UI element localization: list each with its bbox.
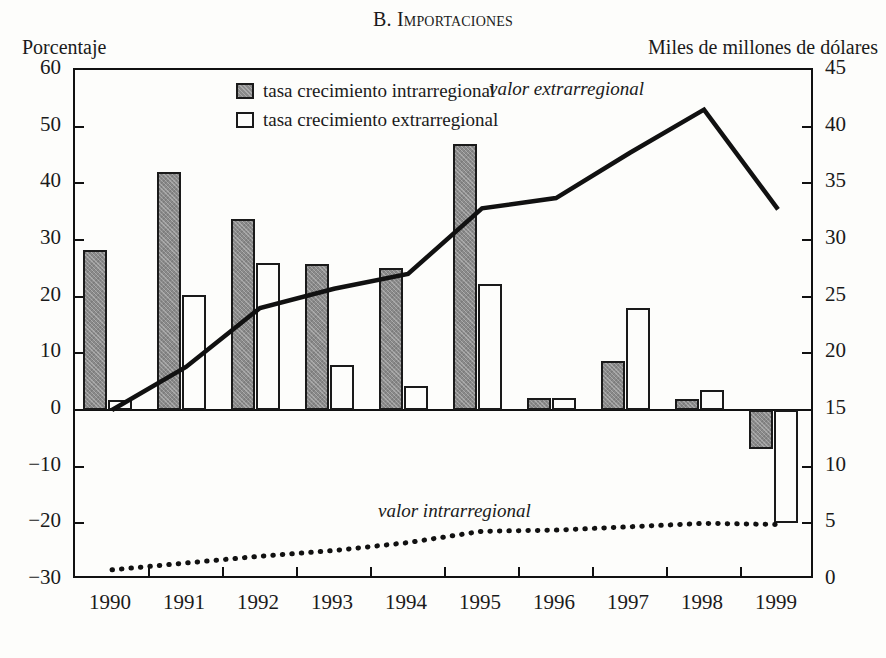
y-tick-label: 50 [0, 114, 61, 135]
chart-title-main: Importaciones [397, 8, 513, 30]
y-tick-label: 40 [0, 170, 61, 191]
y2-tick-label: 25 [825, 284, 846, 305]
x-tick-label: 1993 [295, 592, 369, 613]
y2-tick-label: 15 [825, 397, 846, 418]
y2-tick-label: 30 [825, 227, 846, 248]
chart-stage: B. Importaciones Porcentaje Miles de mil… [0, 0, 886, 658]
legend-label-extrarregional: tasa crecimiento extrarregional [263, 109, 498, 131]
legend-swatch-icon-extrarregional [236, 112, 254, 128]
y-tick-label: 30 [0, 227, 61, 248]
y-tick-label: 0 [0, 397, 61, 418]
y2-tick-label: 20 [825, 340, 846, 361]
legend-item-intrarregional: tasa crecimiento intrarregional [236, 78, 498, 104]
legend-label-intrarregional: tasa crecimiento intrarregional [263, 80, 495, 102]
x-tick-label: 1994 [369, 592, 443, 613]
chart-title-prefix: B. [373, 8, 397, 30]
y2-tick-label: 35 [825, 170, 846, 191]
x-tick-label: 1997 [591, 592, 665, 613]
y-axis-title: Porcentaje [22, 36, 106, 59]
x-tick-label: 1999 [739, 592, 813, 613]
y-tick-label: 60 [0, 57, 61, 78]
y2-tick-label: 10 [825, 454, 846, 475]
legend-swatch-icon-intrarregional [236, 83, 254, 99]
y-tick-label: −20 [0, 510, 61, 531]
x-tick-label: 1991 [147, 592, 221, 613]
y-tick-label: −10 [0, 454, 61, 475]
chart-title: B. Importaciones [0, 8, 886, 31]
x-tick-label: 1990 [73, 592, 147, 613]
y2-tick-label: 5 [825, 510, 836, 531]
y2-tick-label: 40 [825, 114, 846, 135]
x-tick-label: 1998 [665, 592, 739, 613]
y2-tick-label: 0 [825, 567, 836, 588]
x-tick-label: 1995 [443, 592, 517, 613]
annotation-valor-extrarregional: valor extrarregional [489, 78, 644, 100]
y-tick-label: 10 [0, 340, 61, 361]
y2-tick-label: 45 [825, 57, 846, 78]
annotation-valor-intrarregional: valor intrarregional [378, 500, 531, 522]
legend-item-extrarregional: tasa crecimiento extrarregional [236, 107, 498, 133]
chart-legend: tasa crecimiento intrarregional tasa cre… [236, 78, 498, 136]
line-valor-extrarregional [112, 110, 778, 410]
x-tick-label: 1992 [221, 592, 295, 613]
y-tick-label: −30 [0, 567, 61, 588]
y-tick-label: 20 [0, 284, 61, 305]
x-tick-label: 1996 [517, 592, 591, 613]
line-valor-intrarregional [112, 523, 778, 569]
